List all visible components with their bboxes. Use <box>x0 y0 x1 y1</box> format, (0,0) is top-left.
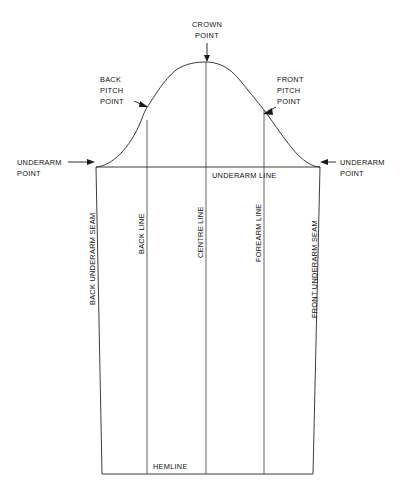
front-underarm-seam-line <box>313 167 320 474</box>
front-pitch-point-label-line2: PITCH <box>277 86 300 95</box>
back-line-label: BACK LINE <box>137 213 146 254</box>
front-pitch-point-label-line3: POINT <box>277 97 301 106</box>
back-pitch-point-label-line2: PITCH <box>100 86 123 95</box>
crown-point-label-line1: CROWN <box>192 20 222 29</box>
underarm-point-right-label-line2: POINT <box>340 169 364 178</box>
front-underarm-seam-label: FRONT UNDERARM SEAM <box>310 220 319 318</box>
hemline-label: HEMLINE <box>153 462 188 471</box>
underarm-point-left-label-line2: POINT <box>17 169 41 178</box>
crown-point-arrowhead <box>204 55 210 62</box>
underarm-point-right-label-line1: UNDERARM <box>340 158 385 167</box>
centre-line-label: CENTRE LINE <box>196 206 205 258</box>
underarm-point-right-arrowhead <box>320 159 328 165</box>
back-pitch-point-arrowhead <box>139 101 148 107</box>
crown-point-label-line2: POINT <box>195 31 219 40</box>
underarm-point-left-label-line1: UNDERARM <box>17 158 62 167</box>
underarm-line-label: UNDERARM LINE <box>212 171 276 180</box>
sleeve-pattern-drawing: CROWN POINT BACK PITCH POINT FRONT PITCH… <box>0 0 404 498</box>
underarm-point-left-arrowhead <box>87 159 95 165</box>
back-pitch-point-label-line3: POINT <box>100 97 124 106</box>
sleeve-pattern-diagram: CROWN POINT BACK PITCH POINT FRONT PITCH… <box>0 0 404 498</box>
forearm-line-label: FOREARM LINE <box>254 204 263 262</box>
front-pitch-point-arrowhead <box>263 108 273 115</box>
back-underarm-seam-label: BACK UNDERARM SEAM <box>88 213 97 305</box>
front-pitch-point-label-line1: FRONT <box>277 75 304 84</box>
back-pitch-point-label-line1: BACK <box>100 75 121 84</box>
